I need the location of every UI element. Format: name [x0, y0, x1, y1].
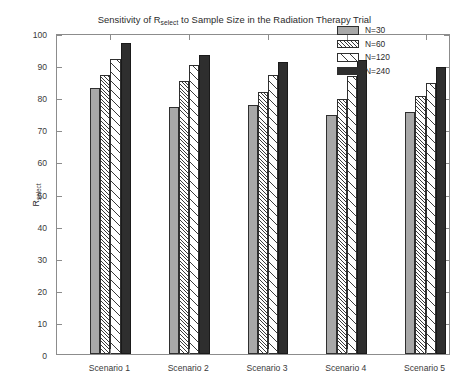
- y-axis-tick-label: 40: [7, 223, 47, 233]
- y-axis-tick-mark: [57, 99, 62, 100]
- legend-swatch-icon: [337, 53, 359, 62]
- y-axis-tick-label: 0: [7, 351, 47, 361]
- title-prefix: Sensitivity of R: [98, 14, 161, 25]
- y-axis-tick-mark: [57, 35, 62, 36]
- bar-N120-scenario1: [110, 59, 120, 354]
- bar-N60-scenario2: [179, 81, 189, 354]
- x-axis-tick-label: Scenario 2: [168, 363, 209, 373]
- y-axis-tick-mark: [57, 324, 62, 325]
- y-axis-tick-mark: [57, 163, 62, 164]
- legend-item-N240[interactable]: N=240: [337, 65, 445, 79]
- bar-N30-scenario4: [326, 115, 336, 354]
- x-axis-tick-label: Scenario 4: [325, 363, 366, 373]
- y-axis-tick-label: 50: [7, 191, 47, 201]
- x-axis-tick-mark: [189, 35, 190, 40]
- bar-N60-scenario3: [258, 92, 268, 354]
- x-axis-tick-mark: [110, 349, 111, 354]
- y-axis-tick-label: 70: [7, 126, 47, 136]
- x-axis-tick-mark: [189, 349, 190, 354]
- x-axis-tick-mark: [268, 349, 269, 354]
- bar-N240-scenario3: [278, 62, 288, 354]
- x-axis-tick-label: Scenario 1: [89, 363, 130, 373]
- title-subscript: select: [161, 19, 179, 26]
- y-axis-tick-label: 20: [7, 287, 47, 297]
- legend-item-N30[interactable]: N=30: [337, 24, 445, 38]
- legend: N=30N=60N=120N=240: [337, 24, 445, 78]
- x-axis-tick-mark: [268, 35, 269, 40]
- y-axis-tick-mark: [57, 260, 62, 261]
- bar-N120-scenario2: [189, 65, 199, 354]
- y-axis-tick-label: 100: [7, 30, 47, 40]
- bar-N30-scenario1: [90, 88, 100, 354]
- y-axis-tick-label: 60: [7, 158, 47, 168]
- bar-N120-scenario5: [426, 83, 436, 354]
- y-axis-tick-mark: [57, 131, 62, 132]
- plot-area: Rselect 0102030405060708090100: [56, 34, 450, 355]
- figure-canvas: Sensitivity of Rselect to Sample Size in…: [0, 0, 469, 386]
- bar-N30-scenario5: [405, 112, 415, 354]
- bar-N240-scenario1: [121, 43, 131, 354]
- legend-label: N=60: [365, 38, 385, 51]
- bar-N120-scenario3: [268, 75, 278, 354]
- bar-N60-scenario4: [337, 99, 347, 354]
- bar-N60-scenario1: [100, 75, 110, 354]
- bar-N60-scenario5: [415, 96, 425, 354]
- x-axis-tick-mark: [347, 349, 348, 354]
- bar-N240-scenario2: [199, 55, 209, 354]
- y-axis-tick-mark: [57, 292, 62, 293]
- legend-swatch-icon: [337, 40, 359, 49]
- legend-item-N120[interactable]: N=120: [337, 51, 445, 65]
- y-axis-tick-label: 10: [7, 319, 47, 329]
- bar-N240-scenario5: [436, 67, 446, 354]
- bar-N240-scenario4: [357, 60, 367, 354]
- y-axis-tick-label: 80: [7, 94, 47, 104]
- y-axis-tick-label: 30: [7, 255, 47, 265]
- legend-label: N=30: [365, 24, 385, 37]
- bar-N120-scenario4: [347, 76, 357, 354]
- x-axis-tick-label: Scenario 5: [404, 363, 445, 373]
- x-axis-tick-label: Scenario 3: [246, 363, 287, 373]
- legend-swatch-icon: [337, 26, 359, 35]
- legend-label: N=240: [365, 65, 390, 78]
- legend-label: N=120: [365, 51, 390, 64]
- plot-inner: 0102030405060708090100: [57, 35, 449, 354]
- y-axis-tick-mark: [57, 228, 62, 229]
- legend-swatch-icon: [337, 67, 359, 76]
- y-axis-tick-mark: [57, 196, 62, 197]
- x-axis-tick-mark: [426, 349, 427, 354]
- x-axis-tick-mark: [110, 35, 111, 40]
- y-axis-tick-label: 90: [7, 62, 47, 72]
- bar-N30-scenario3: [248, 105, 258, 354]
- y-axis-tick-mark: [57, 67, 62, 68]
- y-axis-title-main: R: [31, 200, 41, 207]
- bar-N30-scenario2: [169, 107, 179, 354]
- legend-item-N60[interactable]: N=60: [337, 38, 445, 52]
